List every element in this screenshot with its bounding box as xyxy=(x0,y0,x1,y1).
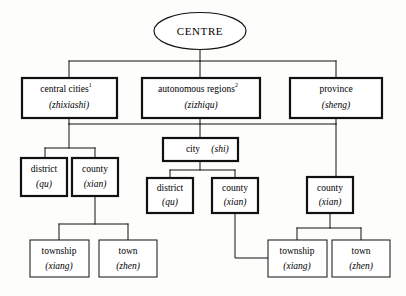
county-left-label-en: county xyxy=(82,164,108,174)
node-city[interactable]: city (shi) xyxy=(163,138,238,161)
node-township-left[interactable]: township (xiang) xyxy=(30,240,89,277)
node-county-province[interactable]: county (xian) xyxy=(307,177,353,213)
diagram-canvas: CENTRE central cities1 (zhixiashi) auton… xyxy=(0,0,406,296)
township-right-label-pinyin: (xiang) xyxy=(283,261,310,272)
province-label-en: province xyxy=(319,84,352,94)
county-right-label-en: county xyxy=(317,183,343,193)
town-right-label-en: town xyxy=(352,246,371,256)
node-town-left[interactable]: town (zhen) xyxy=(99,240,157,277)
central-cities-label-pinyin: (zhixiashi) xyxy=(49,100,89,111)
county-mid-label-en: county xyxy=(222,183,248,193)
district-left-label-en: district xyxy=(31,164,58,174)
centre-label: CENTRE xyxy=(177,25,223,37)
county-mid-label-pinyin: (xian) xyxy=(224,197,247,208)
town-right-label-pinyin: (zhen) xyxy=(349,261,373,272)
node-town-right[interactable]: town (zhen) xyxy=(332,240,390,277)
node-central-cities[interactable]: central cities1 (zhixiashi) xyxy=(22,78,117,118)
connector-mid-county-to-township xyxy=(235,213,268,258)
node-county-city[interactable]: county (xian) xyxy=(212,178,258,213)
township-left-label-pinyin: (xiang) xyxy=(45,261,72,272)
node-province[interactable]: province (sheng) xyxy=(290,78,382,118)
autonomous-regions-label-pinyin: (zizhiqu) xyxy=(184,100,217,111)
district-left-label-pinyin: (qu) xyxy=(36,179,52,190)
hierarchy-diagram: CENTRE central cities1 (zhixiashi) auton… xyxy=(0,0,406,296)
node-district-city[interactable]: district (qu) xyxy=(147,178,193,213)
node-district-central-cities[interactable]: district (qu) xyxy=(21,158,67,196)
county-left-label-pinyin: (xian) xyxy=(84,179,107,190)
node-county-central-cities[interactable]: county (xian) xyxy=(72,158,118,196)
district-mid-label-en: district xyxy=(157,183,184,193)
province-label-pinyin: (sheng) xyxy=(322,100,351,111)
autonomous-regions-label-en: autonomous regions2 xyxy=(158,82,238,94)
node-township-right[interactable]: township (xiang) xyxy=(268,240,327,277)
county-right-label-pinyin: (xian) xyxy=(319,197,342,208)
district-mid-label-pinyin: (qu) xyxy=(162,197,178,208)
township-right-label-en: township xyxy=(280,246,315,256)
city-label-en: city xyxy=(186,144,200,154)
town-left-label-pinyin: (zhen) xyxy=(116,261,140,272)
city-label-pinyin: (shi) xyxy=(211,144,228,155)
township-left-label-en: township xyxy=(42,246,77,256)
node-centre[interactable]: CENTRE xyxy=(154,13,246,50)
node-autonomous-regions[interactable]: autonomous regions2 (zizhiqu) xyxy=(142,78,260,118)
central-cities-label-en: central cities1 xyxy=(40,82,91,94)
town-left-label-en: town xyxy=(119,246,138,256)
